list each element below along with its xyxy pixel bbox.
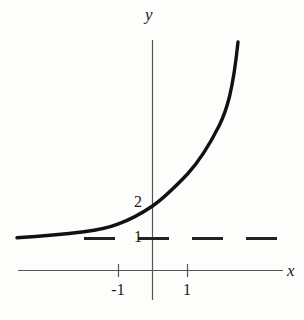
x-axis-label: x — [287, 262, 295, 279]
plot-canvas — [0, 0, 304, 320]
exponential-function-graph: y x -1 1 2 1 — [0, 0, 304, 320]
y-axis-label: y — [145, 6, 153, 23]
asymptote-label-one: 1 — [118, 229, 142, 245]
x-tick-label-negative-one: -1 — [104, 282, 132, 298]
x-tick-label-one: 1 — [175, 282, 199, 298]
y-intercept-label-two: 2 — [118, 194, 142, 210]
